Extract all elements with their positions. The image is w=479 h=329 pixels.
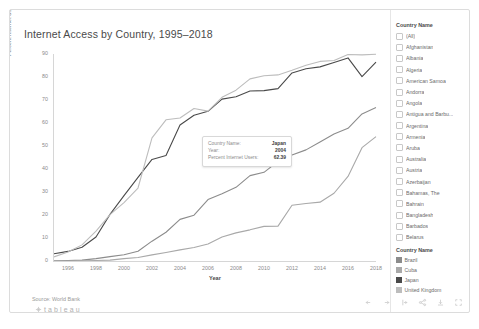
filter-item[interactable]: Azerbaijan bbox=[396, 176, 469, 187]
filter-item[interactable]: Andorra bbox=[396, 86, 469, 97]
x-tick-label: 2016 bbox=[333, 266, 363, 271]
filter-item-label: Bahamas, The bbox=[406, 190, 440, 196]
y-axis-line bbox=[53, 54, 54, 261]
color-legend-heading: Country Name bbox=[396, 247, 469, 253]
filter-item[interactable]: Barbados bbox=[396, 221, 469, 232]
filter-item[interactable]: (All) bbox=[396, 31, 469, 42]
filter-item[interactable]: Australia bbox=[396, 154, 469, 165]
country-filter-list[interactable]: (All)AfghanistanAlbaniaAlgeriaAmerican S… bbox=[396, 31, 469, 245]
y-tick-label: 70 bbox=[26, 97, 48, 102]
y-tick-label: 60 bbox=[26, 120, 48, 125]
revert-icon[interactable] bbox=[400, 298, 409, 307]
y-tick-label: 0 bbox=[26, 258, 48, 263]
filter-item-label: Algeria bbox=[406, 67, 422, 73]
checkbox-icon[interactable] bbox=[396, 122, 403, 129]
tableau-wordmark: tableau bbox=[44, 306, 82, 313]
filter-item[interactable]: Albania bbox=[396, 53, 469, 64]
y-tick-label: 50 bbox=[26, 143, 48, 148]
legend-item-label: United Kingdom bbox=[405, 287, 442, 293]
filter-item[interactable]: Bahrain bbox=[396, 198, 469, 209]
filter-heading: Country Name bbox=[396, 22, 469, 28]
checkbox-icon[interactable] bbox=[396, 178, 403, 185]
y-tick-label: 10 bbox=[26, 235, 48, 240]
viz-toolbar bbox=[364, 298, 463, 307]
tooltip-row: Percent Internet Users: 62.39 bbox=[208, 155, 286, 162]
checkbox-icon[interactable] bbox=[396, 200, 403, 207]
checkbox-icon[interactable] bbox=[396, 167, 403, 174]
x-axis-line bbox=[53, 261, 376, 262]
x-tick-label: 2014 bbox=[305, 266, 335, 271]
checkbox-icon[interactable] bbox=[396, 189, 403, 196]
legend-item-label: Cuba bbox=[405, 267, 417, 273]
x-axis-label: Year bbox=[54, 275, 376, 281]
checkbox-icon[interactable] bbox=[396, 55, 403, 62]
checkbox-icon[interactable] bbox=[396, 100, 403, 107]
redo-icon[interactable] bbox=[382, 298, 391, 307]
checkbox-icon[interactable] bbox=[396, 234, 403, 241]
checkbox-icon[interactable] bbox=[396, 66, 403, 73]
checkbox-icon[interactable] bbox=[396, 89, 403, 96]
legend-item-label: Japan bbox=[405, 277, 419, 283]
legend-color-swatch bbox=[396, 267, 402, 273]
legend-item-label: Brazil bbox=[405, 257, 418, 263]
filter-item[interactable]: Algeria bbox=[396, 64, 469, 75]
filter-item[interactable]: American Samoa bbox=[396, 75, 469, 86]
chart-pane: Internet Access by Country, 1995–2018 Pe… bbox=[10, 10, 390, 312]
filter-item[interactable]: Aruba bbox=[396, 142, 469, 153]
filter-item[interactable]: Angola bbox=[396, 98, 469, 109]
legend-pane: Country Name (All)AfghanistanAlbaniaAlge… bbox=[390, 10, 469, 312]
legend-color-swatch bbox=[396, 257, 402, 263]
tooltip-value: 62.39 bbox=[274, 155, 286, 162]
share-icon[interactable] bbox=[418, 298, 427, 307]
x-tick-label: 2000 bbox=[109, 266, 139, 271]
checkbox-icon[interactable] bbox=[396, 44, 403, 51]
checkbox-icon[interactable] bbox=[396, 212, 403, 219]
x-tick-label: 2002 bbox=[137, 266, 167, 271]
filter-item-label: Bahrain bbox=[406, 201, 424, 207]
page-title: Internet Access by Country, 1995–2018 bbox=[24, 28, 213, 40]
filter-item[interactable]: Argentina bbox=[396, 120, 469, 131]
filter-item[interactable]: Bahamas, The bbox=[396, 187, 469, 198]
fullscreen-icon[interactable] bbox=[454, 298, 463, 307]
data-tooltip: Country Name: Japan Year: 2004 Percent I… bbox=[202, 136, 292, 167]
tooltip-key: Year: bbox=[208, 148, 219, 155]
filter-item-label: Albania bbox=[406, 55, 423, 61]
download-icon[interactable] bbox=[436, 298, 445, 307]
tooltip-row: Year: 2004 bbox=[208, 148, 286, 155]
legend-item[interactable]: Cuba bbox=[396, 265, 469, 275]
x-tick-label: 2008 bbox=[221, 266, 251, 271]
filter-item-label: Armenia bbox=[406, 134, 425, 140]
checkbox-icon[interactable] bbox=[396, 33, 403, 40]
y-tick-label: 90 bbox=[26, 51, 48, 56]
y-axis-label: Percent Internet Users bbox=[9, 9, 12, 56]
filter-item[interactable]: Belgium bbox=[396, 243, 469, 244]
undo-icon[interactable] bbox=[364, 298, 373, 307]
checkbox-icon[interactable] bbox=[396, 111, 403, 118]
filter-item[interactable]: Afghanistan bbox=[396, 42, 469, 53]
x-tick-label: 1996 bbox=[53, 266, 83, 271]
tooltip-key: Country Name: bbox=[208, 141, 241, 148]
checkbox-icon[interactable] bbox=[396, 133, 403, 140]
legend-color-swatch bbox=[396, 277, 402, 283]
checkbox-icon[interactable] bbox=[396, 156, 403, 163]
filter-item[interactable]: Belarus bbox=[396, 232, 469, 243]
tooltip-key: Percent Internet Users: bbox=[208, 155, 258, 162]
filter-item[interactable]: Antigua and Barbu... bbox=[396, 109, 469, 120]
legend-item[interactable]: Brazil bbox=[396, 255, 469, 265]
filter-item[interactable]: Armenia bbox=[396, 131, 469, 142]
checkbox-icon[interactable] bbox=[396, 223, 403, 230]
x-tick-label: 2018 bbox=[361, 266, 391, 271]
source-caption: Source: World Bank bbox=[32, 296, 80, 302]
checkbox-icon[interactable] bbox=[396, 77, 403, 84]
filter-item-label: Antigua and Barbu... bbox=[406, 111, 453, 117]
checkbox-icon[interactable] bbox=[396, 144, 403, 151]
filter-item[interactable]: Austria bbox=[396, 165, 469, 176]
tooltip-row: Country Name: Japan bbox=[208, 141, 286, 148]
tooltip-value: Japan bbox=[272, 141, 286, 148]
tableau-logo: tableau bbox=[35, 306, 82, 313]
filter-item-label: Aruba bbox=[406, 145, 420, 151]
filter-item[interactable]: Bangladesh bbox=[396, 210, 469, 221]
legend-item[interactable]: United Kingdom bbox=[396, 285, 469, 295]
filter-item-label: (All) bbox=[406, 33, 415, 39]
legend-item[interactable]: Japan bbox=[396, 275, 469, 285]
